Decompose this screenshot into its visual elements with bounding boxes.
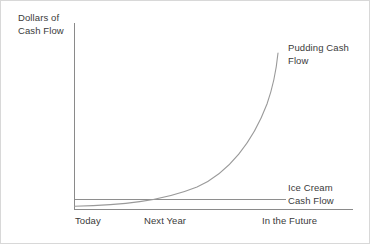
series-label-icecream-line2: Cash Flow bbox=[288, 195, 334, 206]
y-axis-title: Dollars ofCash Flow bbox=[18, 12, 64, 37]
series-label-icecream: Ice CreamCash Flow bbox=[288, 182, 334, 207]
y-axis-title-line1: Dollars of bbox=[18, 12, 59, 23]
series-label-icecream-line1: Ice Cream bbox=[288, 182, 333, 193]
chart-plot-area bbox=[1, 1, 370, 244]
series-curve-pudding bbox=[75, 53, 279, 206]
series-label-pudding-line2: Flow bbox=[288, 55, 308, 66]
x-tick-label-in-the-future: In the Future bbox=[262, 215, 317, 226]
series-label-pudding-line1: Pudding Cash bbox=[288, 42, 349, 53]
x-tick-label-today: Today bbox=[75, 215, 101, 226]
y-axis-title-line2: Cash Flow bbox=[18, 25, 64, 36]
x-tick-label-next-year: Next Year bbox=[144, 215, 186, 226]
series-label-pudding: Pudding CashFlow bbox=[288, 42, 349, 67]
cash-flow-chart: Dollars ofCash Flow Pudding CashFlow Ice… bbox=[0, 0, 370, 244]
